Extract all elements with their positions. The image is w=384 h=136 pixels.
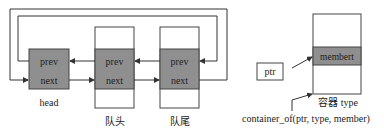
head-next-label: next [40,75,57,86]
queue-head-label: 队头 [105,115,125,127]
container-type-label: 容器 type [318,96,358,108]
node1-next-label: next [106,75,123,86]
ptr-arrow [292,57,312,68]
ptr-label: ptr [264,66,276,77]
queue-tail-node [160,27,199,108]
head-prev-label: prev [40,56,58,67]
queue-tail-label: 队尾 [170,115,190,127]
node2-prev-label: prev [171,56,189,67]
container-of-arrow [292,94,312,111]
node1-prev-label: prev [106,56,124,67]
linked-list-diagram: prev next head prev next 队头 prev next 队尾… [0,0,384,136]
node2-next-label: next [171,75,188,86]
container-of-label: container_of(ptr, type, member) [242,113,370,125]
member-label: membert [320,52,354,62]
head-label: head [40,97,59,108]
queue-head-node [95,27,134,108]
